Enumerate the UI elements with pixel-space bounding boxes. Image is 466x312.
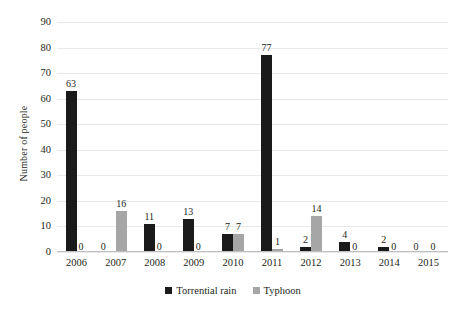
bar-group: 130 <box>174 22 213 252</box>
bar-typhoon[interactable]: 7 <box>233 234 244 252</box>
bar-value-label: 2 <box>300 235 311 245</box>
bars: 771 <box>252 22 291 252</box>
x-tick-label: 2012 <box>292 257 331 268</box>
y-tick-label: 70 <box>19 68 51 79</box>
legend-item[interactable]: Typhoon <box>253 285 301 296</box>
bar-torrential-rain[interactable]: 11 <box>144 224 155 252</box>
bar-value-label: 11 <box>144 212 155 222</box>
bar-chart: Number of people 0102030405060708090 630… <box>0 0 466 312</box>
y-tick-label: 90 <box>19 17 51 28</box>
bar-typhoon[interactable]: 14 <box>311 216 322 252</box>
bar-group: 20 <box>370 22 409 252</box>
bar-torrential-rain[interactable]: 77 <box>261 55 272 252</box>
chart-legend: Torrential rainTyphoon <box>0 285 466 296</box>
bar-value-label: 63 <box>66 79 77 89</box>
bars: 630 <box>57 22 96 252</box>
y-tick-label: 80 <box>19 43 51 54</box>
x-tick-label: 2014 <box>370 257 409 268</box>
x-tick-label: 2006 <box>57 257 96 268</box>
bar-group: 771 <box>252 22 291 252</box>
gridline <box>57 252 448 253</box>
y-tick-label: 50 <box>19 119 51 130</box>
bar-group: 40 <box>331 22 370 252</box>
bar-torrential-rain[interactable]: 7 <box>222 234 233 252</box>
bar-value-label: 7 <box>222 222 233 232</box>
bar-value-label: 2 <box>378 235 389 245</box>
x-tick-label: 2013 <box>331 257 370 268</box>
bar-group: 214 <box>292 22 331 252</box>
x-tick-label: 2007 <box>96 257 135 268</box>
bars: 40 <box>331 22 370 252</box>
bars: 016 <box>96 22 135 252</box>
bar-value-label: 4 <box>339 230 350 240</box>
legend-label: Typhoon <box>264 285 301 296</box>
bar-torrential-rain[interactable]: 13 <box>183 219 194 252</box>
bars: 20 <box>370 22 409 252</box>
bar-groups: 63001611013077771214402000 <box>57 22 448 252</box>
x-tick-label: 2009 <box>174 257 213 268</box>
bars: 214 <box>292 22 331 252</box>
y-tick-label: 10 <box>19 221 51 232</box>
x-tick-label: 2008 <box>135 257 174 268</box>
bar-torrential-rain[interactable]: 63 <box>66 91 77 252</box>
x-tick-label: 2015 <box>409 257 448 268</box>
y-tick-label: 20 <box>19 196 51 207</box>
bar-value-label: 77 <box>261 43 272 53</box>
legend-swatch-icon <box>165 287 172 294</box>
y-tick-label: 30 <box>19 170 51 181</box>
legend-label: Torrential rain <box>176 285 236 296</box>
bar-value-label: 7 <box>233 222 244 232</box>
bar-value-label: 16 <box>116 199 127 209</box>
bars: 00 <box>409 22 448 252</box>
bars: 110 <box>135 22 174 252</box>
x-axis-line <box>57 251 448 252</box>
y-tick-label: 0 <box>19 247 51 258</box>
bar-group: 77 <box>213 22 252 252</box>
bar-group: 00 <box>409 22 448 252</box>
bar-value-label: 13 <box>183 207 194 217</box>
legend-item[interactable]: Torrential rain <box>165 285 236 296</box>
bars: 130 <box>174 22 213 252</box>
bar-group: 110 <box>135 22 174 252</box>
x-axis-labels: 2006200720082009201020112012201320142015 <box>57 257 448 268</box>
bars: 77 <box>213 22 252 252</box>
bar-group: 630 <box>57 22 96 252</box>
x-tick-label: 2010 <box>213 257 252 268</box>
bar-group: 016 <box>96 22 135 252</box>
plot-area: 0102030405060708090 63001611013077771214… <box>57 22 448 252</box>
bar-value-label: 1 <box>272 237 283 247</box>
bar-typhoon[interactable]: 16 <box>116 211 127 252</box>
legend-swatch-icon <box>253 287 260 294</box>
y-tick-label: 60 <box>19 94 51 105</box>
bar-value-label: 14 <box>311 204 322 214</box>
x-tick-label: 2011 <box>252 257 291 268</box>
y-tick-label: 40 <box>19 145 51 156</box>
